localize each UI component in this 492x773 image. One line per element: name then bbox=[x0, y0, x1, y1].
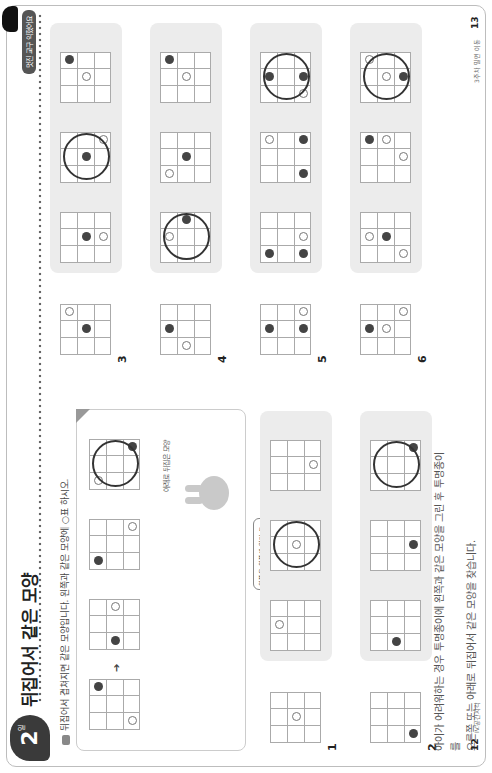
answer-circle-mark bbox=[363, 53, 410, 100]
white-dot-icon bbox=[365, 233, 374, 242]
black-dot-icon bbox=[82, 325, 91, 334]
pencil-icon bbox=[62, 735, 70, 745]
black-dot-icon bbox=[299, 250, 308, 259]
black-dot-icon bbox=[299, 170, 308, 179]
instruction: 뒤집어서 겹쳐지면 같은 모양입니다. 왼쪽과 같은 모양에 ○표 하시오. bbox=[58, 479, 71, 745]
page-title: 뒤집어서 같은 모양 bbox=[16, 572, 41, 707]
problem-number: 1 bbox=[326, 743, 339, 751]
right-section-label: 3주차 밀면 이동 bbox=[472, 39, 481, 83]
option-grid[interactable] bbox=[260, 52, 311, 103]
white-dot-icon bbox=[292, 713, 301, 722]
white-dot-icon bbox=[399, 153, 408, 162]
example-grid bbox=[89, 679, 140, 730]
white-dot-icon bbox=[275, 621, 284, 630]
black-dot-icon bbox=[265, 250, 274, 259]
given-grid bbox=[260, 304, 311, 355]
option-grid[interactable] bbox=[160, 132, 211, 183]
answer-circle-mark bbox=[373, 441, 420, 488]
bunny-ear bbox=[185, 485, 203, 492]
white-dot-icon bbox=[128, 523, 137, 532]
white-dot-icon bbox=[299, 308, 308, 317]
black-dot-icon bbox=[409, 730, 418, 739]
problem-number: 3 bbox=[116, 355, 129, 363]
left-page-number: 12 bbox=[470, 738, 480, 751]
problem-number: 6 bbox=[416, 355, 429, 363]
example-grid bbox=[89, 519, 140, 570]
answer-circle-mark bbox=[273, 521, 320, 568]
instruction-text: 뒤집어서 겹쳐지면 같은 모양입니다. 왼쪽과 같은 모양에 ○표 하시오. bbox=[60, 479, 70, 731]
right-page-number: 13 bbox=[470, 16, 480, 29]
black-dot-icon bbox=[299, 325, 308, 334]
option-grid[interactable] bbox=[270, 520, 321, 571]
white-dot-icon bbox=[382, 136, 391, 145]
black-dot-icon bbox=[265, 325, 274, 334]
option-grid[interactable] bbox=[270, 440, 321, 491]
white-dot-icon bbox=[309, 461, 318, 470]
black-dot-icon bbox=[382, 233, 391, 242]
black-dot-icon bbox=[365, 325, 374, 334]
white-dot-icon bbox=[182, 73, 191, 82]
problem-number: 5 bbox=[316, 355, 329, 363]
option-grid[interactable] bbox=[60, 212, 111, 263]
black-dot-icon bbox=[111, 637, 120, 646]
example-box: ➔ 아래로 뒤집은 모양 왼쪽을 위쪽에 있던 도형이 아래쪽으로 가고, 아래… bbox=[76, 409, 246, 751]
white-dot-icon bbox=[265, 136, 274, 145]
white-dot-icon bbox=[182, 342, 191, 351]
black-dot-icon bbox=[365, 136, 374, 145]
option-grid[interactable] bbox=[60, 132, 111, 183]
lesson-number: 2 bbox=[17, 730, 42, 745]
car-icon bbox=[2, 6, 18, 32]
black-dot-icon bbox=[94, 683, 103, 692]
white-dot-icon bbox=[299, 233, 308, 242]
arrow-icon: ➔ bbox=[111, 664, 122, 672]
answer-circle-mark bbox=[92, 440, 139, 487]
white-dot-icon bbox=[382, 325, 391, 334]
black-dot-icon bbox=[94, 557, 103, 566]
given-grid bbox=[270, 692, 321, 743]
option-grid[interactable] bbox=[160, 212, 211, 263]
black-dot-icon bbox=[165, 56, 174, 65]
black-dot-icon bbox=[392, 638, 401, 647]
workbook-page: 2 일 뒤집어서 같은 모양 멋진 교구 익혔어요 뒤집어서 겹쳐지면 같은 모… bbox=[0, 0, 492, 773]
white-dot-icon bbox=[399, 308, 408, 317]
parent-note-line-1: 아이가 어려워하는 경우 투명종이에 왼쪽과 같은 모양을 그린 후 투명종이를 bbox=[432, 451, 464, 751]
bunny-mascot-icon bbox=[199, 476, 229, 510]
given-grid bbox=[160, 304, 211, 355]
black-dot-icon bbox=[165, 325, 174, 334]
lesson-suffix: 일 bbox=[16, 725, 26, 731]
option-grid[interactable] bbox=[60, 52, 111, 103]
option-grid[interactable] bbox=[360, 132, 411, 183]
example-grid bbox=[89, 599, 140, 650]
given-grid bbox=[60, 304, 111, 355]
example-caption: 아래로 뒤집은 모양 bbox=[161, 440, 171, 492]
black-dot-icon bbox=[82, 233, 91, 242]
option-grid[interactable] bbox=[260, 212, 311, 263]
black-dot-icon bbox=[409, 541, 418, 550]
option-grid[interactable] bbox=[370, 440, 421, 491]
left-section-label: IV.공간지각 bbox=[472, 702, 481, 733]
option-grid[interactable] bbox=[260, 132, 311, 183]
option-grid[interactable] bbox=[160, 52, 211, 103]
white-dot-icon bbox=[65, 308, 74, 317]
option-grid[interactable] bbox=[360, 52, 411, 103]
white-dot-icon bbox=[399, 250, 408, 259]
white-dot-icon bbox=[165, 170, 174, 179]
white-dot-icon bbox=[82, 73, 91, 82]
answer-circle-mark bbox=[163, 213, 210, 260]
problem-number: 4 bbox=[216, 355, 229, 363]
example-grid bbox=[89, 439, 140, 490]
white-dot-icon bbox=[99, 233, 108, 242]
section-tag: 멋진 교구 익혔어요 bbox=[22, 10, 36, 74]
lesson-badge: 2 일 bbox=[10, 715, 50, 761]
option-grid[interactable] bbox=[360, 212, 411, 263]
black-dot-icon bbox=[65, 56, 74, 65]
option-grid[interactable] bbox=[370, 600, 421, 651]
option-grid[interactable] bbox=[270, 600, 321, 651]
white-dot-icon bbox=[128, 717, 137, 726]
black-dot-icon bbox=[182, 153, 191, 162]
option-grid[interactable] bbox=[370, 520, 421, 571]
page-fold-corner bbox=[76, 409, 90, 423]
white-dot-icon bbox=[111, 603, 120, 612]
given-grid bbox=[370, 692, 421, 743]
answer-circle-mark bbox=[63, 133, 110, 180]
